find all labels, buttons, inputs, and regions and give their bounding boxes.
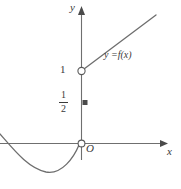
value-filled-point-marker <box>83 100 88 105</box>
fraction-denominator: 2 <box>59 104 68 115</box>
x-axis-label: x <box>167 146 172 157</box>
jump-open-point-marker <box>78 67 85 74</box>
y-axis <box>78 6 85 160</box>
function-graph-figure: y x O 1 1 2 y =f(x) <box>0 0 181 189</box>
graph-canvas <box>0 0 181 189</box>
origin-open-point-marker <box>78 140 85 147</box>
y-axis-label: y <box>70 2 75 13</box>
origin-label: O <box>86 143 94 154</box>
line-branch-curve <box>84 15 156 69</box>
y-axis-arrowhead <box>78 6 85 15</box>
parabola-branch-curve <box>0 134 79 172</box>
fraction-numerator: 1 <box>59 90 68 101</box>
y-tick-label-one: 1 <box>60 64 66 75</box>
y-tick-label-half: 1 2 <box>59 90 68 114</box>
curve-label: y =f(x) <box>104 50 132 60</box>
